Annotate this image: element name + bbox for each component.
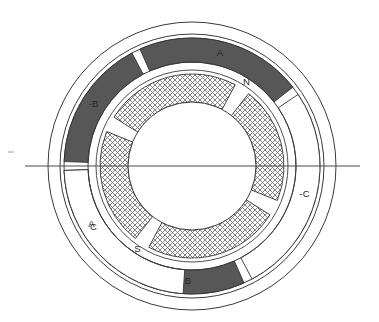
rotor-pole-label-S: S [134, 243, 141, 254]
motor-diagram-svg: -BA-CBACNS [0, 0, 379, 322]
stator-label-B: B [185, 275, 192, 286]
stator-label-negC: -C [299, 188, 310, 199]
stator-label-A: A [217, 47, 224, 58]
motor-cross-section-figure: -BA-CBACNS [0, 0, 379, 322]
stator-label-negB: -B [89, 98, 99, 109]
rotor-pole-label-N: N [243, 76, 250, 87]
stator-label-C: C [90, 221, 97, 232]
